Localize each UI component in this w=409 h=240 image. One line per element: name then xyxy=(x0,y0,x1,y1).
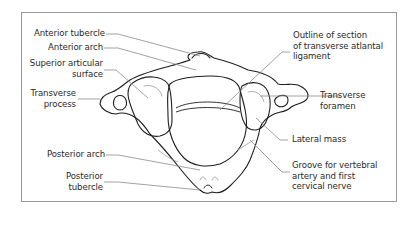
label-lateral-mass: Lateral mass xyxy=(292,134,346,145)
groove-shading-left xyxy=(158,150,178,162)
label-superior-articular-surface: Superior articular surface xyxy=(30,58,103,79)
leader-transverse-atlantal-ligament xyxy=(220,52,290,110)
leader-superior-articular-surface xyxy=(104,70,148,98)
label-anterior-tubercle: Anterior tubercle xyxy=(34,28,105,39)
label-groove-vertebral-artery: Groove for vertebral artery and first ce… xyxy=(292,160,377,192)
leader-posterior-arch xyxy=(106,155,200,170)
leader-anterior-tubercle xyxy=(106,34,200,56)
label-posterior-tubercle: Posterior tubercle xyxy=(66,171,103,192)
leader-lateral-mass xyxy=(256,118,288,140)
ligament-outline-inner xyxy=(176,108,240,113)
label-anterior-arch: Anterior arch xyxy=(48,42,103,53)
label-posterior-arch: Posterior arch xyxy=(47,149,105,160)
bone-outline xyxy=(100,52,308,194)
label-transverse-foramen: Transverse foramen xyxy=(320,90,365,111)
leader-posterior-tubercle xyxy=(104,182,200,190)
label-transverse-atlantal-ligament: Outline of section of transverse atlanta… xyxy=(293,30,383,62)
label-transverse-process: Transverse process xyxy=(31,88,76,109)
